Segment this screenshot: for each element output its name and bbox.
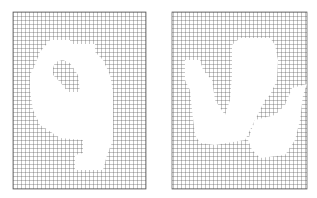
right-panel (172, 12, 307, 189)
left-panel (13, 12, 146, 189)
figure-canvas (0, 0, 317, 198)
